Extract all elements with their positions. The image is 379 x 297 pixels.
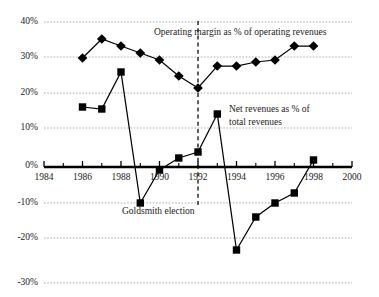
chart-container: 40% 30% 20% 10% 0% -10% -20% -30% 1984 1…: [0, 0, 379, 297]
y-tick-label-0: 0%: [4, 160, 38, 170]
x-tick-label-2000: 2000: [332, 172, 372, 182]
net-revenues-label-line1: Net revenues as % of: [229, 103, 310, 116]
x-tick-label-1996: 1996: [255, 172, 295, 182]
y-tick-label-neg20: -20%: [4, 232, 38, 242]
y-tick-label-neg30: -30%: [4, 277, 38, 287]
net-revenues-label-line2: total revenues: [229, 116, 282, 129]
x-tick-label-1988: 1988: [101, 172, 141, 182]
x-tick-label-1992: 1992: [178, 172, 218, 182]
x-tick-label-1998: 1998: [294, 172, 334, 182]
x-tick-label-1986: 1986: [63, 172, 103, 182]
y-tick-label-10: 10%: [4, 122, 38, 132]
chart-plot-area: [0, 0, 379, 297]
x-tick-label-1990: 1990: [140, 172, 180, 182]
y-tick-label-30: 30%: [4, 51, 38, 61]
y-tick-label-40: 40%: [4, 16, 38, 26]
goldsmith-election-label: Goldsmith election: [122, 206, 195, 216]
operating-margin-label: Operating margin as % of operating reven…: [154, 26, 326, 39]
y-tick-label-neg10: -10%: [4, 197, 38, 207]
y-tick-label-20: 20%: [4, 87, 38, 97]
x-tick-label-1984: 1984: [24, 172, 64, 182]
x-tick-label-1994: 1994: [217, 172, 257, 182]
